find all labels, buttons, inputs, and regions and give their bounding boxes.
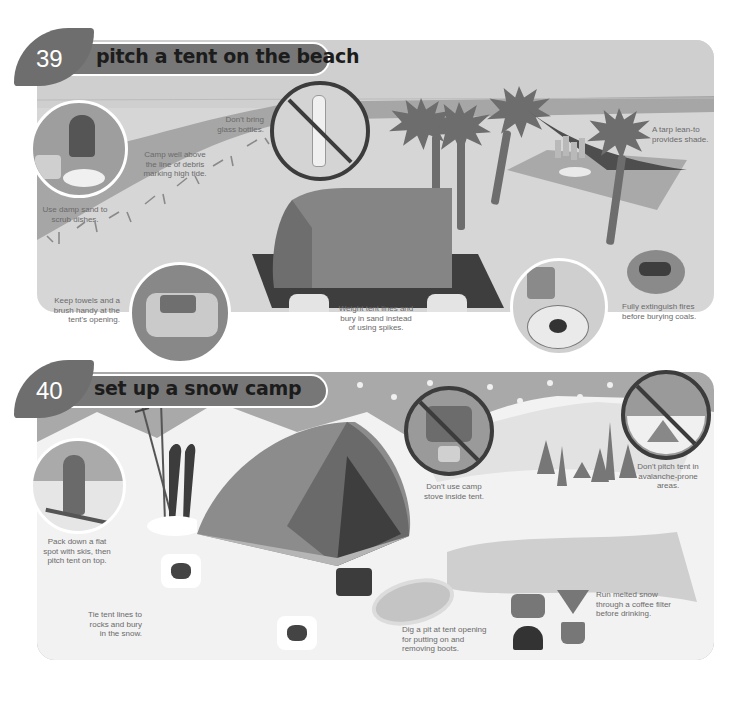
tip-glass-bottles: Don't bring glass bottles. [212,115,264,134]
rock-anchor [277,616,317,650]
no-stove-in-tent-icon [404,386,494,476]
section-40-title: set up a snow camp [94,377,301,399]
tip-weight-lines: Weight tent lines and bury in sand inste… [336,304,416,333]
sandbag-anchor [289,294,329,312]
boots [336,568,372,596]
tip-tie-lines: Tie tent lines to rocks and bury in the … [82,610,142,639]
tip-dig-pit: Dig a pit at tent opening for putting on… [402,625,488,654]
a-frame-tent [252,188,512,312]
tip-no-stove: Don't use camp stove inside tent. [418,482,490,501]
extinguish-fire-circle [510,258,608,356]
tip-fires: Fully extinguish fires before burying co… [622,302,702,321]
tip-avalanche: Don't pitch tent in avalanche-prone area… [630,462,706,491]
beach-panel [37,40,714,312]
stove-base [513,626,543,650]
section-39-number: 39 [36,45,63,73]
tip-high-tide: Camp well above the line of debris marki… [142,150,208,179]
tip-pack-down: Pack down a flat spot with skis, then pi… [40,537,114,566]
tarp-lean-to [497,100,697,220]
rock-anchor [161,554,201,588]
tip-melt-snow: Run melted snow through a coffee filter … [596,590,672,619]
tip-towels: Keep towels and a brush handy at the ten… [50,296,120,325]
no-avalanche-icon [621,370,711,460]
no-glass-bottle-icon [270,81,370,181]
towels-brush-circle [129,262,231,364]
tip-damp-sand: Use damp sand to scrub dishes. [40,205,110,224]
section-39-title: pitch a tent on the beach [96,45,359,67]
skier-circle [30,438,126,534]
water-cup [561,622,585,644]
section-40-number: 40 [36,377,63,405]
coffee-filter-funnel [557,590,589,614]
sandbag-anchor [427,294,467,312]
washing-dishes-circle [30,100,128,198]
fire-logs [639,262,671,276]
stove-pot [511,594,545,618]
tip-tarp: A tarp lean-to provides shade. [652,125,712,144]
dome-tent [187,416,427,566]
